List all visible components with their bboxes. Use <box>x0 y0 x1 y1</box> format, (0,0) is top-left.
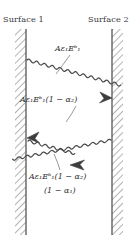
figure-canvas <box>0 0 138 247</box>
ray-3-path <box>28 140 85 170</box>
radiation-exchange-figure: Surface 1 Surface 2 <box>0 0 138 247</box>
surface-1-hatching <box>15 29 26 235</box>
ray-3-arrowhead <box>70 160 85 170</box>
ray-1-label-text: Aε₁Eᵇ₁ <box>55 44 81 53</box>
surface-2-hatching <box>112 29 123 235</box>
surface-2-wall <box>112 29 123 235</box>
ray-1-arrowhead <box>100 92 113 103</box>
ray-3-label-line2: (1 − α₁) <box>44 186 76 195</box>
ray-2-path <box>13 132 111 160</box>
ray-3-label-line1-text: Aε₁Eᵇ₁(1 − α₂) <box>29 172 86 181</box>
ray-2-label: Aε₁Eᵇ₁(1 − α₂) <box>20 95 77 104</box>
ray-3-label-line2-text: (1 − α₁) <box>44 186 76 195</box>
ray-3-leader-line <box>54 154 60 170</box>
ray-3-label-line1: Aε₁Eᵇ₁(1 − α₂) <box>29 172 86 181</box>
ray-2-leader-line <box>66 106 76 122</box>
ray-1-label: Aε₁Eᵇ₁ <box>55 44 81 53</box>
surface-1-wall <box>15 29 26 235</box>
ray-2-label-text: Aε₁Eᵇ₁(1 − α₂) <box>20 95 77 104</box>
ray-2-arrowhead <box>27 132 40 143</box>
